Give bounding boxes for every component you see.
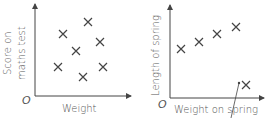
left-data-points: [54, 18, 107, 81]
x-marker: [177, 45, 185, 53]
x-marker: [84, 18, 92, 26]
x-marker: [54, 63, 62, 71]
x-marker: [79, 73, 87, 81]
right-origin-label: O: [158, 98, 167, 111]
left-x-axis-label: Weight: [62, 103, 97, 114]
x-marker: [59, 30, 67, 38]
left-y-axis-label-line1: Score on: [2, 31, 13, 75]
right-scatter-chart: O Weight on spring Length of spring: [150, 5, 264, 118]
right-y-axis-label: Length of spring: [150, 15, 161, 96]
x-marker: [195, 38, 203, 46]
x-marker: [96, 38, 104, 46]
x-marker: [72, 47, 80, 55]
x-marker: [232, 23, 240, 31]
left-origin-label: O: [22, 94, 31, 107]
left-y-axis-label-line2: maths test: [16, 26, 27, 80]
x-marker: [99, 63, 107, 71]
x-marker: [242, 81, 250, 89]
charts-canvas: O Weight Score on maths test O Weight on…: [0, 0, 269, 121]
x-marker: [213, 30, 221, 38]
left-scatter-chart: O Weight Score on maths test: [2, 4, 131, 114]
right-x-axis-label: Weight on spring: [174, 104, 258, 115]
right-data-points: [177, 23, 250, 89]
